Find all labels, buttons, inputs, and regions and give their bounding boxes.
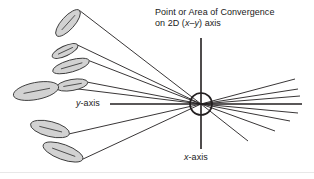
right-ray-group: [201, 79, 300, 141]
y-axis-label-rest: -axis: [81, 98, 100, 108]
convergence-diagram-figure: Point or Area of Convergence on 2D (x–y)…: [0, 0, 314, 179]
x-axis-label: x-axis: [184, 152, 208, 163]
ellipse-tail-3: [88, 82, 201, 104]
right-ray-4: [201, 104, 290, 121]
caption-line2-suffix: ) axis: [199, 18, 221, 28]
caption-line-2: on 2D (x–y) axis: [155, 18, 274, 29]
distribution-ellipse-5: [29, 117, 71, 141]
right-ray-6: [201, 104, 248, 141]
ellipse-group: [12, 6, 91, 166]
convergence-caption: Point or Area of Convergence on 2D (x–y)…: [155, 7, 274, 29]
right-ray-3: [201, 104, 298, 113]
ellipse-tail-6: [83, 104, 201, 159]
distribution-ellipse-4: [12, 78, 60, 103]
distribution-ellipse-0: [52, 6, 84, 40]
caption-line-1: Point or Area of Convergence: [155, 7, 274, 17]
y-axis-label: y-axis: [76, 98, 100, 109]
distribution-ellipse-3: [55, 77, 88, 93]
footer-divider: [0, 172, 314, 173]
ellipse-tail-1: [78, 45, 201, 104]
distribution-ellipse-6: [41, 138, 86, 166]
x-axis-label-rest: -axis: [189, 152, 208, 162]
distribution-ellipse-1: [50, 41, 80, 62]
caption-line2-prefix: on 2D (: [155, 18, 185, 28]
